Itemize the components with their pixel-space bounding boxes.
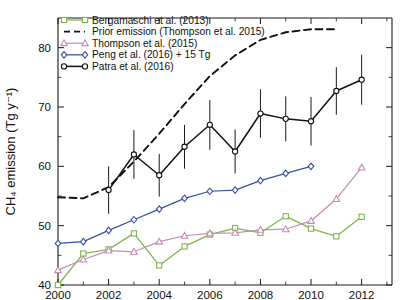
legend-entry-2[interactable]: Thompson et al. (2015) (61, 38, 198, 49)
data-point (258, 177, 263, 184)
x-tick-label: 2000 (45, 289, 71, 300)
legend-marker (61, 52, 66, 59)
legend-label: Patra et al. (2016) (92, 61, 174, 72)
x-tick-label: 2012 (349, 289, 375, 300)
data-point (106, 227, 111, 234)
legend-label: Bergamaschi et al. (2013) (92, 15, 209, 26)
y-tick-label: 50 (38, 220, 51, 232)
data-point (182, 195, 187, 202)
legend-label: Prior emission (Thompson et al. 2015) (92, 26, 265, 37)
data-point (156, 206, 161, 213)
data-point (233, 149, 238, 154)
series-line-0 (58, 216, 362, 285)
data-point (232, 187, 237, 194)
x-tick-label: 2002 (96, 289, 122, 300)
data-point (308, 163, 313, 170)
data-point (283, 214, 288, 219)
series-0 (55, 214, 364, 288)
data-point (182, 144, 187, 149)
chart-legend: Bergamaschi et al. (2013)Prior emission … (61, 15, 265, 72)
legend-entry-1[interactable]: Prior emission (Thompson et al. 2015) (64, 26, 265, 37)
legend-entry-0[interactable]: Bergamaschi et al. (2013) (61, 15, 208, 26)
data-point (157, 263, 162, 268)
data-point (131, 231, 136, 236)
data-point (283, 116, 288, 121)
data-point (308, 119, 313, 124)
data-point (359, 77, 364, 82)
x-tick-label: 2010 (298, 289, 324, 300)
legend-marker (61, 17, 66, 22)
data-point (207, 122, 212, 127)
legend-label: Peng et al. (2016) + 15 Tg (92, 49, 211, 60)
legend-label: Thompson et al. (2015) (92, 38, 197, 49)
chart-canvas: 40506070802000200220042006200820102012 B… (0, 0, 405, 300)
data-point (157, 173, 162, 178)
data-point (359, 214, 364, 219)
x-tick-label: 2008 (248, 289, 274, 300)
legend-marker (82, 64, 87, 69)
y-tick-label: 60 (38, 160, 51, 172)
y-axis-label: CH₄ emission (Tg y⁻¹) (3, 88, 18, 216)
data-point (283, 170, 288, 177)
data-point (207, 188, 212, 195)
legend-marker (82, 17, 87, 22)
series-2 (55, 164, 365, 272)
data-point (334, 234, 339, 239)
data-point (55, 282, 60, 287)
data-point (106, 187, 111, 192)
data-point (81, 238, 86, 245)
data-point (358, 164, 365, 170)
data-point (258, 111, 263, 116)
x-tick-label: 2004 (146, 289, 172, 300)
data-point (308, 226, 313, 231)
data-point (334, 88, 339, 93)
y-tick-label: 70 (38, 101, 51, 113)
legend-entry-4[interactable]: Patra et al. (2016) (61, 61, 173, 72)
y-axis-label-text: CH₄ emission (Tg y⁻¹) (3, 88, 18, 216)
series-line-2 (58, 168, 362, 271)
data-point (131, 152, 136, 157)
legend-entry-3[interactable]: Peng et al. (2016) + 15 Tg (61, 49, 211, 60)
data-point (131, 216, 136, 223)
legend-marker (61, 64, 66, 69)
data-point (55, 240, 60, 247)
x-tick-label: 2006 (197, 289, 223, 300)
legend-marker (82, 52, 87, 59)
data-point (182, 244, 187, 249)
chart-figure: 40506070802000200220042006200820102012 B… (0, 0, 405, 300)
y-tick-label: 80 (38, 42, 51, 54)
